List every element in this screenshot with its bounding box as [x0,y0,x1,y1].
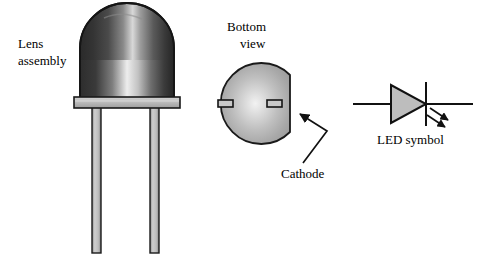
led-bottom-view: Bottom view Cathode [218,19,327,181]
led-symbol: LED symbol [353,82,473,147]
base-flange [74,97,180,108]
bottom-view-pad-right [267,100,282,107]
led-side-view: Lens assembly [18,3,180,253]
led-diagram-svg: Lens assembly Bottom view Cathode [0,0,485,267]
lens-assembly-label-line1: Lens [18,36,43,51]
lead-right [150,107,159,253]
led-diagram: Lens assembly Bottom view Cathode [0,0,485,267]
cathode-label: Cathode [281,166,325,181]
led-symbol-label: LED symbol [377,132,444,147]
symbol-anode-triangle [391,85,426,123]
bottom-view-label-line1: Bottom [227,19,266,34]
cathode-leader-line [300,114,327,163]
lens-dome [80,3,174,98]
bottom-view-label-line2: view [240,36,266,51]
lead-left [92,107,101,253]
lens-assembly-label-line2: assembly [18,53,67,68]
bottom-view-pad-left [218,100,233,107]
